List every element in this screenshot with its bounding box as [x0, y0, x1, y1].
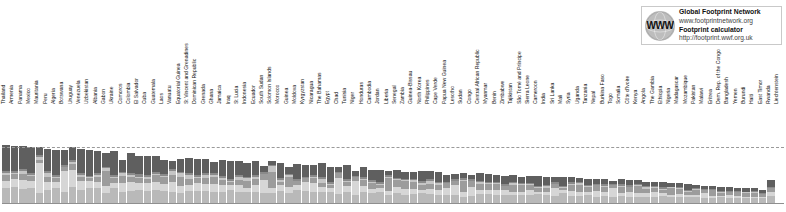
- bar-comoros[interactable]: [118, 104, 126, 204]
- bar-st-lucia[interactable]: [235, 104, 243, 204]
- bar-senegal[interactable]: [393, 104, 401, 204]
- bar-st-vincent-and-grenadines[interactable]: [185, 104, 193, 204]
- bar-dem-rep-of-the-congo[interactable]: [717, 104, 725, 204]
- bar-moldova[interactable]: [293, 104, 301, 204]
- bar-uruguay[interactable]: [69, 104, 77, 204]
- bar-honduras[interactable]: [359, 104, 367, 204]
- bar-east-timor[interactable]: [758, 104, 766, 204]
- bar-south-sudan[interactable]: [260, 104, 268, 204]
- bar-sudan[interactable]: [459, 104, 467, 204]
- bar-laos[interactable]: [160, 104, 168, 204]
- bar-tajikistan[interactable]: [509, 104, 517, 204]
- bar-iraq[interactable]: [226, 104, 234, 204]
- bar-dominican-republic[interactable]: [193, 104, 201, 204]
- country-label: Nigeria: [666, 88, 671, 104]
- bar-somalia[interactable]: [617, 104, 625, 204]
- bar-uzbekistan[interactable]: [85, 104, 93, 204]
- bar-egypt[interactable]: [326, 104, 334, 204]
- bar-cuba[interactable]: [143, 104, 151, 204]
- bar-jordan[interactable]: [376, 104, 384, 204]
- country-label: Papua New Guinea: [442, 60, 447, 104]
- bar-madagascar[interactable]: [675, 104, 683, 204]
- bar-indonesia[interactable]: [243, 104, 251, 204]
- bar-guinea[interactable]: [285, 104, 293, 204]
- bar-zambia[interactable]: [401, 104, 409, 204]
- bar-burkina-faso[interactable]: [601, 104, 609, 204]
- bar-liberia[interactable]: [384, 104, 392, 204]
- bar-niger[interactable]: [351, 104, 359, 204]
- bar-mauritania[interactable]: [35, 104, 43, 204]
- bar-nigeria[interactable]: [667, 104, 675, 204]
- bar-burundi[interactable]: [742, 104, 750, 204]
- bar-tanzania[interactable]: [584, 104, 592, 204]
- bar-the-bahamas[interactable]: [318, 104, 326, 204]
- bar-papua-new-guinea[interactable]: [443, 104, 451, 204]
- bar-india[interactable]: [542, 104, 550, 204]
- bar-venezuela[interactable]: [77, 104, 85, 204]
- bar-angola[interactable]: [642, 104, 650, 204]
- bar-lesotho[interactable]: [451, 104, 459, 204]
- bar-solomon-islands[interactable]: [268, 104, 276, 204]
- bar-segment-carbon: [767, 180, 775, 187]
- bar-sierra-leone[interactable]: [526, 104, 534, 204]
- bar-sri-lanka[interactable]: [551, 104, 559, 204]
- bar-haiti[interactable]: [750, 104, 758, 204]
- bar-guatemala[interactable]: [152, 104, 160, 204]
- bar-gabon[interactable]: [102, 104, 110, 204]
- bar-myanmar[interactable]: [484, 104, 492, 204]
- bar-eritrea[interactable]: [709, 104, 717, 204]
- bar-cambodia[interactable]: [368, 104, 376, 204]
- bar-syria[interactable]: [567, 104, 575, 204]
- bar-mozambique[interactable]: [684, 104, 692, 204]
- bar-colombia[interactable]: [127, 104, 135, 204]
- bar-kyrgyzstan[interactable]: [301, 104, 309, 204]
- bar-north-korea[interactable]: [418, 104, 426, 204]
- bar-cape-verde[interactable]: [434, 104, 442, 204]
- bar-nepal[interactable]: [592, 104, 600, 204]
- bar-ghana[interactable]: [210, 104, 218, 204]
- bar-jamaica[interactable]: [218, 104, 226, 204]
- bar-mexico[interactable]: [27, 104, 35, 204]
- bar-pakistan[interactable]: [692, 104, 700, 204]
- country-label-slot: Uganda: [576, 4, 584, 104]
- bar-liechtenstein[interactable]: [775, 104, 783, 204]
- bar-the-gambia[interactable]: [650, 104, 658, 204]
- bar-segment-forest-land: [401, 181, 409, 189]
- bar-ethiopia[interactable]: [659, 104, 667, 204]
- bar-benin[interactable]: [492, 104, 500, 204]
- bar-grenada[interactable]: [202, 104, 210, 204]
- bar-el-salvador[interactable]: [135, 104, 143, 204]
- bar-tunisia[interactable]: [343, 104, 351, 204]
- bar-mali[interactable]: [559, 104, 567, 204]
- bar-zimbabwe[interactable]: [501, 104, 509, 204]
- bar-kenya[interactable]: [634, 104, 642, 204]
- bar-thailand[interactable]: [2, 104, 10, 204]
- bar-algeria[interactable]: [52, 104, 60, 204]
- country-label-slot: India: [542, 4, 550, 104]
- bar-togo[interactable]: [609, 104, 617, 204]
- bar-congo[interactable]: [468, 104, 476, 204]
- bar-armenia[interactable]: [10, 104, 18, 204]
- bar-s-o-tom-and-pr-ncipe[interactable]: [517, 104, 525, 204]
- bar-panama[interactable]: [19, 104, 27, 204]
- bar-uganda[interactable]: [576, 104, 584, 204]
- bar-ecuador[interactable]: [251, 104, 259, 204]
- bar-nicaragua[interactable]: [310, 104, 318, 204]
- bar-guinea-bissau[interactable]: [409, 104, 417, 204]
- bar-botswana[interactable]: [60, 104, 68, 204]
- bar-yemen[interactable]: [734, 104, 742, 204]
- bar-albania[interactable]: [93, 104, 101, 204]
- bar-chad[interactable]: [335, 104, 343, 204]
- bar-morocco[interactable]: [276, 104, 284, 204]
- bar-c-te-d-ivoire[interactable]: [625, 104, 633, 204]
- bar-vanuatu[interactable]: [168, 104, 176, 204]
- bar-philippines[interactable]: [426, 104, 434, 204]
- bar-ukraine[interactable]: [110, 104, 118, 204]
- bar-central-african-republic[interactable]: [476, 104, 484, 204]
- bar-cameroon[interactable]: [534, 104, 542, 204]
- bar-peru[interactable]: [44, 104, 52, 204]
- bar-equatorial-guinea[interactable]: [177, 104, 185, 204]
- bar-bangladesh[interactable]: [725, 104, 733, 204]
- bar-rwanda[interactable]: [767, 104, 775, 204]
- bar-malawi[interactable]: [700, 104, 708, 204]
